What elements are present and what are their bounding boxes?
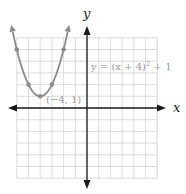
x-axis-label: x (173, 100, 181, 115)
data-point (38, 94, 43, 99)
data-point (14, 47, 19, 52)
data-point (61, 47, 66, 52)
data-point (26, 82, 31, 87)
parabola-graph: x y y = (x + 4)2 + 1 (−4, 1) (0, 0, 186, 194)
equation-label: y = (x + 4)2 + 1 (90, 60, 172, 72)
vertex-label: (−4, 1) (46, 94, 81, 105)
axes (8, 26, 166, 189)
y-axis-label: y (82, 6, 91, 21)
data-point (50, 82, 55, 87)
